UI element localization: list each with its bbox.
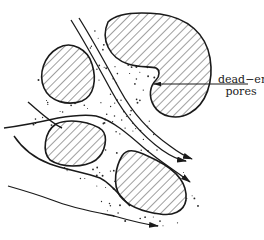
dead-end-pores-label: dead−end pores (218, 74, 264, 98)
grain-upper-left (42, 45, 95, 103)
grain-lower-right (116, 151, 187, 215)
label-line-2: pores (218, 86, 264, 98)
grain-upper-right-large (105, 13, 211, 117)
porous-media-diagram (0, 0, 264, 240)
grain-lower-left (45, 121, 105, 166)
